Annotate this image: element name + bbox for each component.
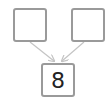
part-box-left[interactable] — [13, 8, 47, 42]
whole-value: 8 — [51, 68, 65, 93]
part-box-right[interactable] — [71, 8, 105, 42]
arrow-left-to-result — [30, 42, 54, 61]
arrow-right-to-result — [62, 42, 84, 61]
whole-box: 8 — [41, 63, 75, 97]
